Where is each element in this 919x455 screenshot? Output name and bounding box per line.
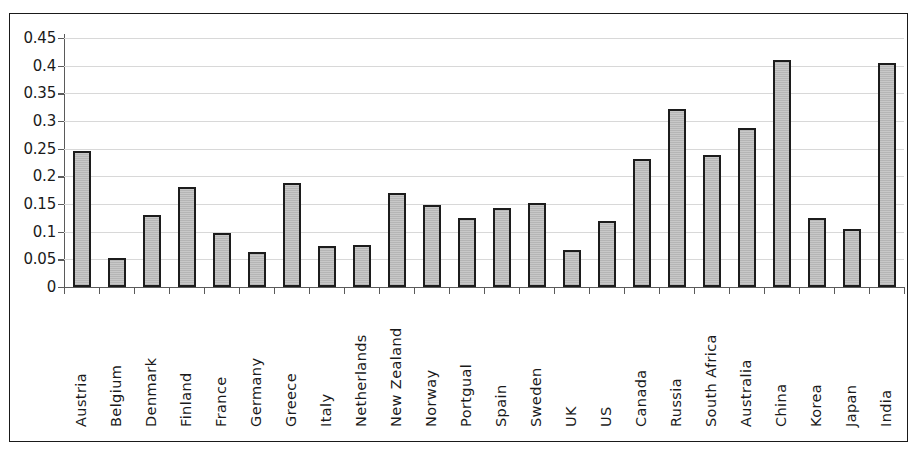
x-axis-category-label: Australia: [739, 297, 754, 427]
y-axis-tick-label: 0.2: [33, 167, 56, 185]
x-axis-tick-mark: [309, 287, 310, 294]
x-axis-tick-marks: [64, 287, 904, 294]
x-label-slot: India: [869, 297, 904, 427]
x-label-slot: Russia: [659, 297, 694, 427]
y-axis-tick-mark: [58, 149, 64, 150]
x-axis-category-label: Canada: [634, 297, 649, 427]
x-label-slot: Germany: [239, 297, 274, 427]
bar-slot: [764, 38, 799, 287]
x-label-slot: Sweden: [519, 297, 554, 427]
x-label-slot: France: [204, 297, 239, 427]
bar-slot: [309, 38, 344, 287]
x-label-slot: Korea: [799, 297, 834, 427]
bar-slot: [379, 38, 414, 287]
chart-frame: 0.450.40.350.30.250.20.150.10.050 Austri…: [9, 13, 908, 442]
bar-slot: [554, 38, 589, 287]
bar-slot: [834, 38, 869, 287]
x-axis-tick-mark: [729, 287, 730, 294]
x-axis-category-label: Japan: [844, 297, 859, 427]
y-axis-tick-mark: [58, 232, 64, 233]
y-axis-tick-label: 0.3: [33, 112, 56, 130]
x-axis-category-label: Austria: [74, 297, 89, 427]
x-axis-tick-mark: [414, 287, 415, 294]
y-axis-tick-mark: [58, 121, 64, 122]
bar: [178, 187, 196, 287]
bar-slot: [869, 38, 904, 287]
bar: [843, 229, 861, 287]
bar: [283, 183, 301, 287]
x-axis-tick-mark: [99, 287, 100, 294]
bar-slot: [344, 38, 379, 287]
y-axis-tick-label: 0: [47, 278, 56, 296]
x-label-slot: Belgium: [99, 297, 134, 427]
bar: [423, 205, 441, 287]
bar: [213, 233, 231, 287]
bar-slot: [484, 38, 519, 287]
x-axis-category-label: China: [774, 297, 789, 427]
bar-slot: [799, 38, 834, 287]
bar: [668, 109, 686, 287]
x-label-slot: Italy: [309, 297, 344, 427]
bar-slot: [694, 38, 729, 287]
x-axis-tick-mark: [659, 287, 660, 294]
x-axis-category-label: Germany: [249, 297, 264, 427]
x-label-slot: Netherlands: [344, 297, 379, 427]
x-label-slot: Japan: [834, 297, 869, 427]
y-axis-tick-label: 0.4: [33, 57, 56, 75]
bar: [878, 63, 896, 287]
x-axis-tick-mark: [344, 287, 345, 294]
x-axis-tick-mark: [484, 287, 485, 294]
x-axis-category-label: Korea: [809, 297, 824, 427]
bar: [458, 218, 476, 287]
x-axis-category-label: France: [214, 297, 229, 427]
y-axis-tick-mark: [58, 93, 64, 94]
x-axis-category-label: Belgium: [109, 297, 124, 427]
x-axis-category-label: Norway: [424, 297, 439, 427]
bar: [388, 193, 406, 287]
x-axis-category-label: Italy: [319, 297, 334, 427]
x-axis-tick-mark: [694, 287, 695, 294]
bar-slot: [99, 38, 134, 287]
bar: [143, 215, 161, 287]
bar: [738, 128, 756, 287]
bar: [703, 155, 721, 287]
x-label-slot: Portgual: [449, 297, 484, 427]
x-axis-tick-mark: [64, 287, 65, 294]
x-axis-category-label: US: [599, 297, 614, 427]
x-axis-tick-mark: [799, 287, 800, 294]
bar-slot: [449, 38, 484, 287]
x-axis-tick-mark: [239, 287, 240, 294]
y-axis-tick-label: 0.25: [23, 140, 56, 158]
bar: [808, 218, 826, 287]
bar: [248, 252, 266, 287]
x-axis-category-label: Greece: [284, 297, 299, 427]
x-axis-tick-mark: [274, 287, 275, 294]
bar-slot: [204, 38, 239, 287]
x-axis-category-label: Russia: [669, 297, 684, 427]
x-axis-tick-mark: [169, 287, 170, 294]
y-axis-tick-mark: [58, 176, 64, 177]
x-axis-tick-mark: [204, 287, 205, 294]
x-label-slot: New Zealand: [379, 297, 414, 427]
x-label-slot: Canada: [624, 297, 659, 427]
bar-slot: [729, 38, 764, 287]
x-axis-tick-mark: [379, 287, 380, 294]
bar-slot: [519, 38, 554, 287]
y-axis-tick-mark: [58, 66, 64, 67]
y-axis-tick-label: 0.05: [23, 250, 56, 268]
x-axis-category-label: UK: [564, 297, 579, 427]
y-axis-tick-mark: [58, 287, 64, 288]
x-axis-tick-mark: [869, 287, 870, 294]
y-axis-tick-label: 0.1: [33, 223, 56, 241]
bar-slot: [169, 38, 204, 287]
y-axis-tick-label: 0.45: [23, 29, 56, 47]
x-label-slot: Norway: [414, 297, 449, 427]
bar: [318, 246, 336, 288]
x-axis-tick-mark: [554, 287, 555, 294]
x-axis-category-labels: AustriaBelgiumDenmarkFinlandFranceGerman…: [64, 297, 904, 427]
x-label-slot: China: [764, 297, 799, 427]
bar: [773, 60, 791, 287]
bar: [528, 203, 546, 287]
bar-slot: [134, 38, 169, 287]
x-axis-category-label: Sweden: [529, 297, 544, 427]
